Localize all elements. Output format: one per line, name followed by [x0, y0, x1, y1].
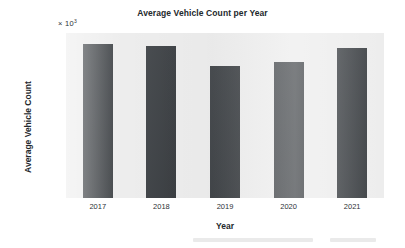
- y-axis-multiplier-exponent: 3: [74, 18, 77, 24]
- x-axis-tick-label: 2018: [131, 202, 191, 211]
- chart-title: Average Vehicle Count per Year: [0, 8, 405, 18]
- y-axis-title: Average Vehicle Count: [23, 52, 33, 202]
- y-axis-multiplier-mantissa: × 10: [58, 19, 74, 28]
- scan-artifact: [193, 238, 313, 242]
- bar: [83, 44, 113, 198]
- bar: [146, 46, 176, 198]
- x-axis-tick-label: 2017: [68, 202, 128, 211]
- y-axis-multiplier: × 103: [58, 19, 77, 28]
- x-axis-tick-label: 2021: [322, 202, 382, 211]
- x-axis-tick-label: 2020: [259, 202, 319, 211]
- bar: [337, 48, 367, 198]
- bar: [210, 66, 240, 198]
- plot-area: 10080604020100: [66, 33, 384, 198]
- chart-figure: Average Vehicle Count per Year × 103 Ave…: [0, 0, 405, 248]
- scan-artifact: [330, 238, 376, 242]
- x-axis-tick-label: 2019: [195, 202, 255, 211]
- bar: [274, 62, 304, 198]
- x-axis-title: Year: [66, 221, 384, 231]
